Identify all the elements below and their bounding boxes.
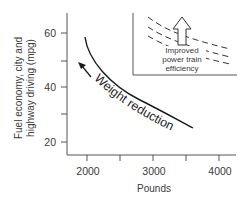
y-axis-title: Fuel economy, city and highway driving (…: [13, 37, 36, 139]
y-tick-label-60: 60: [44, 27, 56, 39]
weight-reduction-arrow-icon: [78, 62, 91, 77]
weight-reduction-label: Weight reduction: [92, 71, 177, 133]
y-axis-title-line-1: Fuel economy, city and: [13, 37, 24, 139]
y-ticks: [61, 33, 67, 142]
inset-label-line-2: power train: [162, 55, 202, 64]
inset-schematic: Improved power train efficiency: [133, 13, 237, 75]
x-ticks: [87, 155, 219, 161]
fuel-economy-chart: 60 40 20 2000 3000 4000 Pounds Fuel econ…: [0, 0, 246, 207]
inset-label-line-3: efficiency: [165, 64, 198, 73]
x-axis-title: Pounds: [137, 183, 171, 194]
weight-reduction-label-path: Weight reduction: [92, 71, 177, 133]
y-tick-label-40: 40: [44, 81, 56, 93]
inset-dashed-curve-top: [148, 17, 230, 49]
x-tick-label-2000: 2000: [76, 165, 100, 177]
inset-label-line-1: Improved: [165, 46, 198, 55]
x-tick-label-4000: 4000: [208, 165, 232, 177]
y-tick-label-20: 20: [44, 136, 56, 148]
y-axis-title-line-2: highway driving (mpg): [25, 39, 36, 137]
x-tick-label-3000: 3000: [142, 165, 166, 177]
